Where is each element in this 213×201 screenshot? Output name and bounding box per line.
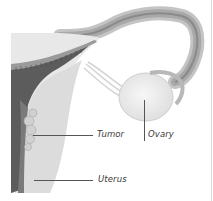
- uterus-leader-line: [34, 180, 93, 181]
- ovary-label: Ovary: [148, 129, 174, 139]
- tumor-leader-line: [33, 135, 93, 136]
- frame-edge: [211, 0, 212, 201]
- tumor-label: Tumor: [97, 129, 124, 139]
- uterus-label: Uterus: [98, 174, 127, 184]
- ovary: [119, 73, 173, 121]
- uterus-illustration: [0, 0, 213, 201]
- ovary-leader-line: [144, 100, 145, 141]
- ovarian-ligament: [84, 62, 124, 96]
- anatomy-diagram: Tumor Ovary Uterus: [0, 0, 213, 201]
